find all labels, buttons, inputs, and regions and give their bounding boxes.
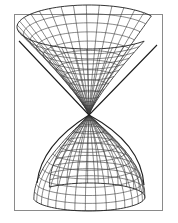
figure: [0, 0, 178, 223]
nappe-mesh: [34, 115, 145, 211]
double-cone-wireframe: [0, 0, 178, 223]
